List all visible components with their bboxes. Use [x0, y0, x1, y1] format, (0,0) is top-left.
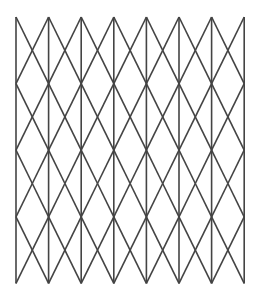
figure-root	[0, 0, 258, 301]
triangular-lattice-diagram	[0, 0, 258, 301]
figure-background	[0, 0, 258, 301]
